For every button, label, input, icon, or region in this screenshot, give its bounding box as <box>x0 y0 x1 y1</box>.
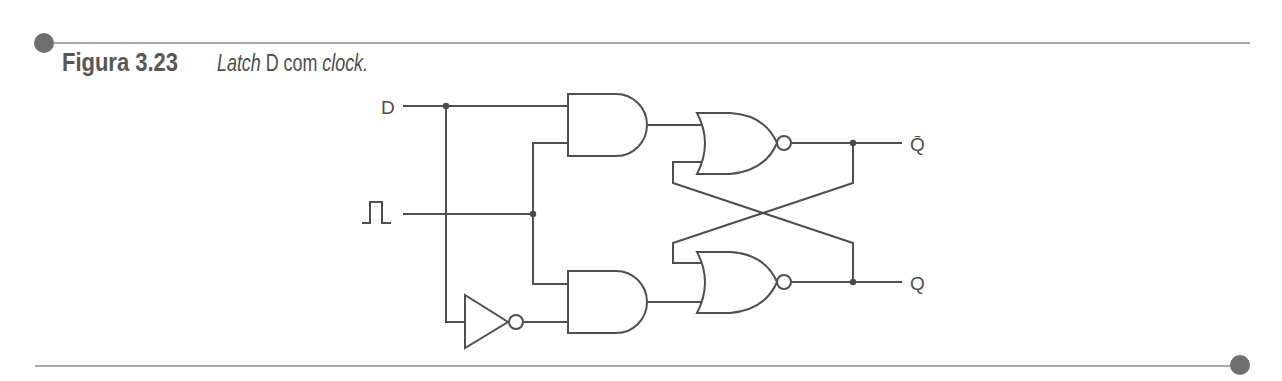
nor-gate-bottom-icon <box>697 252 777 313</box>
caption-latch: Latch <box>217 49 261 76</box>
figure-number: Figura 3.23 <box>62 48 178 76</box>
figure-caption: Latch D com clock. <box>217 49 368 76</box>
output-label-qbar: Q̄ <box>910 134 925 155</box>
not-gate-bubble-icon <box>509 315 523 329</box>
top-rule-dot-icon <box>34 33 54 53</box>
bottom-rule-dot-icon <box>1230 355 1250 375</box>
and-gate-bottom-icon <box>568 271 647 333</box>
junction-d <box>443 103 449 109</box>
nor-gate-bottom-bubble-icon <box>777 275 791 289</box>
clock-pulse-icon <box>362 202 391 223</box>
caption-clock: clock. <box>322 49 368 76</box>
not-gate-icon <box>465 295 508 348</box>
junction-qbar <box>850 140 856 146</box>
output-label-q: Q <box>910 273 925 294</box>
junction-q <box>850 279 856 285</box>
input-label-d: D <box>381 97 395 118</box>
wire-clock-to-ands <box>533 143 568 284</box>
and-gate-top-icon <box>568 94 647 156</box>
caption-middle: D com <box>261 49 323 76</box>
junction-clock <box>530 211 536 217</box>
nor-gate-top-bubble-icon <box>777 136 791 150</box>
figure: Figura 3.23 Latch D com clock. D <box>0 0 1282 381</box>
nor-gate-top-icon <box>697 113 777 174</box>
circuit-diagram: Figura 3.23 Latch D com clock. D <box>0 0 1282 381</box>
